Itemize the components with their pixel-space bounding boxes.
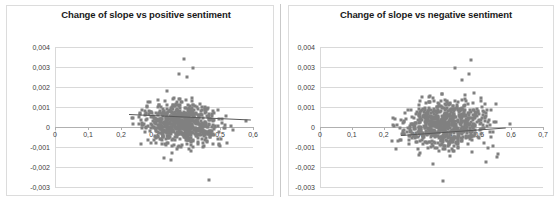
scatter-point xyxy=(191,138,194,141)
scatter-point-outlier xyxy=(496,156,499,159)
scatter-point xyxy=(437,134,440,137)
scatter-point xyxy=(140,143,143,146)
scatter-point xyxy=(466,123,469,126)
scatter-point xyxy=(173,144,176,147)
scatter-point xyxy=(426,116,429,119)
scatter-point xyxy=(200,138,203,141)
scatter-point xyxy=(188,121,191,124)
scatter-point xyxy=(479,121,482,124)
scatter-point xyxy=(473,114,476,117)
scatter-point xyxy=(392,124,395,127)
scatter-point xyxy=(158,127,161,130)
scatter-point xyxy=(446,125,449,128)
y-tick-label: 0,002 xyxy=(297,84,315,91)
scatter-point xyxy=(466,120,469,123)
scatter-point xyxy=(194,128,197,131)
scatter-point xyxy=(211,114,214,117)
scatter-point xyxy=(489,136,492,139)
scatter-point xyxy=(217,131,220,134)
gridline xyxy=(55,147,253,148)
x-tick-mark xyxy=(253,127,254,130)
scatter-point xyxy=(435,115,438,118)
scatter-point xyxy=(155,141,158,144)
scatter-point-outlier xyxy=(165,89,168,92)
x-tick-mark xyxy=(352,127,353,130)
scatter-point xyxy=(428,95,431,98)
x-tick-label: 0,1 xyxy=(347,131,357,138)
scatter-point xyxy=(150,142,153,145)
plot-area-positive: 0,0040,0030,0020,0010-0,001-0,002-0,0030… xyxy=(55,47,253,187)
x-tick-label: 0,6 xyxy=(248,131,258,138)
scatter-point-outlier xyxy=(454,67,457,70)
scatter-point xyxy=(172,104,175,107)
scatter-point xyxy=(448,139,451,142)
scatter-point xyxy=(416,135,419,138)
scatter-point xyxy=(458,113,461,116)
scatter-point xyxy=(477,136,480,139)
scatter-point xyxy=(189,149,192,152)
scatter-point xyxy=(470,150,473,153)
scatter-point xyxy=(455,103,458,106)
scatter-point xyxy=(170,152,173,155)
scatter-point xyxy=(395,147,398,150)
scatter-point xyxy=(483,141,486,144)
scatter-point xyxy=(416,140,419,143)
scatter-point xyxy=(438,149,441,152)
scatter-point xyxy=(433,142,436,145)
scatter-point xyxy=(443,107,446,110)
scatter-point xyxy=(195,122,198,125)
chart-title-negative: Change of slope vs negative sentiment xyxy=(306,9,546,22)
scatter-point xyxy=(156,98,159,101)
scatter-point xyxy=(137,123,140,126)
gridline xyxy=(55,67,253,68)
scatter-point xyxy=(449,117,452,120)
scatter-point xyxy=(447,103,450,106)
scatter-point xyxy=(149,100,152,103)
scatter-point xyxy=(447,149,450,152)
scatter-point xyxy=(211,143,214,146)
scatter-point xyxy=(410,123,413,126)
scatter-point-outlier xyxy=(468,72,471,75)
scatter-point xyxy=(413,127,416,130)
scatter-point xyxy=(417,104,420,107)
scatter-point xyxy=(466,111,469,114)
scatter-point xyxy=(491,131,494,134)
gridline xyxy=(55,187,253,188)
scatter-point xyxy=(211,110,214,113)
scatter-point xyxy=(437,141,440,144)
gridline xyxy=(320,187,543,188)
scatter-point xyxy=(151,111,154,114)
scatter-point xyxy=(390,140,393,143)
scatter-point xyxy=(216,125,219,128)
scatter-point xyxy=(483,120,486,123)
scatter-point xyxy=(216,108,219,111)
x-tick-label: 0,2 xyxy=(379,131,389,138)
scatter-point xyxy=(180,100,183,103)
scatter-point xyxy=(447,113,450,116)
x-tick-mark xyxy=(220,127,221,130)
scatter-point xyxy=(174,119,177,122)
scatter-point xyxy=(423,108,426,111)
scatter-point xyxy=(195,133,198,136)
plot-area-negative: 0,0040,0030,0020,0010-0,001-0,002-0,0030… xyxy=(320,47,543,187)
scatter-point xyxy=(472,102,475,105)
scatter-point xyxy=(203,133,206,136)
scatter-point-outlier xyxy=(183,58,186,61)
scatter-point xyxy=(178,138,181,141)
scatter-point xyxy=(457,146,460,149)
y-tick-label: 0,002 xyxy=(32,84,50,91)
y-tick-label: 0 xyxy=(311,124,315,131)
scatter-point xyxy=(444,117,447,120)
scatter-point xyxy=(225,115,228,118)
scatter-point xyxy=(471,134,474,137)
scatter-point xyxy=(132,122,135,125)
gridline xyxy=(320,47,543,48)
scatter-point xyxy=(431,96,434,99)
scatter-point xyxy=(472,91,475,94)
scatter-point xyxy=(143,131,146,134)
scatter-point-outlier xyxy=(497,153,500,156)
scatter-point xyxy=(444,147,447,150)
scatter-point xyxy=(156,106,159,109)
scatter-point xyxy=(424,125,427,128)
scatter-point xyxy=(408,138,411,141)
